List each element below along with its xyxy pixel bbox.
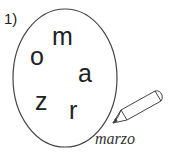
exercise-number: 1) <box>4 11 17 26</box>
letter-m: m <box>52 24 73 49</box>
pencil-icon <box>113 91 162 123</box>
letter-z: z <box>35 89 48 114</box>
letter-o: o <box>30 44 44 69</box>
letter-r: r <box>69 98 77 123</box>
letter-a: a <box>78 61 92 86</box>
answer-word: marzo <box>95 131 135 147</box>
